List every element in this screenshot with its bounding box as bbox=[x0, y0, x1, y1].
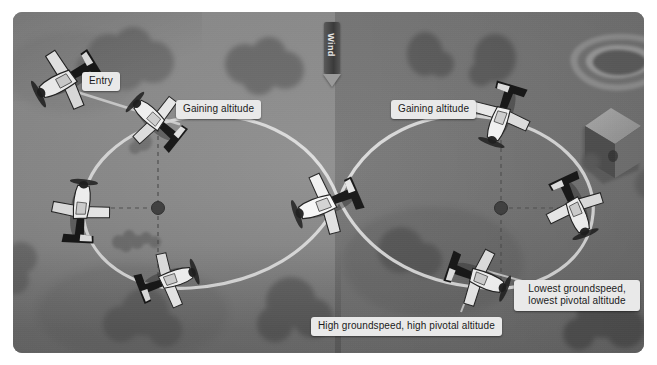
diagram-canvas: Wind Entry Gaining altitude Gaining alti… bbox=[0, 0, 657, 365]
label-lowest-line1: Lowest groundspeed, bbox=[528, 283, 626, 294]
label-high-groundspeed: High groundspeed, high pivotal altitude bbox=[311, 317, 502, 336]
label-lowest-groundspeed: Lowest groundspeed, lowest pivotal altit… bbox=[514, 280, 640, 311]
label-gaining-altitude-left: Gaining altitude bbox=[176, 100, 261, 119]
label-entry: Entry bbox=[82, 72, 120, 91]
wind-arrow-icon bbox=[323, 74, 341, 87]
wind-label: Wind bbox=[326, 23, 336, 67]
wind-indicator: Wind bbox=[322, 22, 346, 100]
terrain-panel: Wind Entry Gaining altitude Gaining alti… bbox=[13, 12, 644, 353]
label-lowest-line2: lowest pivotal altitude bbox=[528, 295, 625, 306]
label-gaining-altitude-right: Gaining altitude bbox=[391, 100, 476, 119]
